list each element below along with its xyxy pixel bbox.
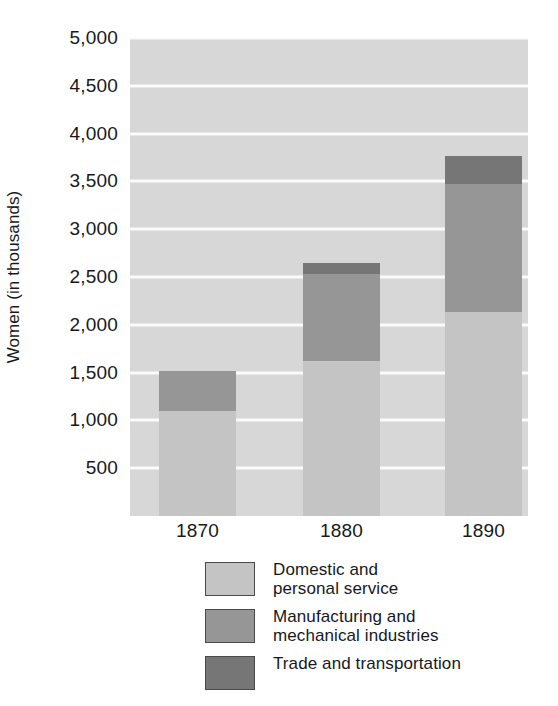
legend-label: Domestic and personal service	[273, 560, 398, 598]
legend-item: Domestic and personal service	[205, 560, 535, 598]
x-tick-label-1890: 1890	[462, 520, 505, 542]
y-tick-label: 5,000	[69, 27, 118, 49]
y-tick-label: 4,000	[69, 123, 118, 145]
y-tick-label: 3,000	[69, 218, 118, 240]
legend-swatch-icon	[205, 609, 255, 643]
chart-figure: Women (in thousands) 5001,0001,5002,0002…	[0, 0, 558, 706]
bar-segment-manufacturing-mechanical-industries-1880	[303, 274, 380, 361]
bar-segment-domestic-personal-service-1890	[445, 312, 522, 516]
legend-item: Trade and transportation	[205, 654, 535, 690]
x-tick-label-1880: 1880	[320, 520, 363, 542]
legend-label: Trade and transportation	[273, 654, 461, 673]
bar-1890	[445, 38, 522, 516]
bar-segment-domestic-personal-service-1880	[303, 361, 380, 516]
y-axis-title: Women (in thousands)	[0, 38, 28, 516]
y-tick-label: 1,000	[69, 409, 118, 431]
bar-1870	[159, 38, 236, 516]
y-tick-label: 1,500	[69, 362, 118, 384]
y-tick-label: 4,500	[69, 75, 118, 97]
y-tick-label: 500	[86, 457, 118, 479]
legend-swatch-icon	[205, 562, 255, 596]
bar-segment-manufacturing-mechanical-industries-1890	[445, 184, 522, 312]
x-axis-tick-labels: 187018801890	[130, 520, 528, 550]
legend-swatch-icon	[205, 656, 255, 690]
legend-label: Manufacturing and mechanical industries	[273, 607, 439, 645]
bar-1880	[303, 38, 380, 516]
y-tick-label: 3,500	[69, 170, 118, 192]
bar-segment-trade-and-transportation-1880	[303, 263, 380, 274]
bar-segment-trade-and-transportation-1890	[445, 156, 522, 185]
y-tick-label: 2,000	[69, 314, 118, 336]
bar-segment-manufacturing-mechanical-industries-1870	[159, 371, 236, 411]
y-axis-tick-labels: 5001,0001,5002,0002,5003,0003,5004,0004,…	[28, 0, 126, 706]
bar-segment-domestic-personal-service-1870	[159, 411, 236, 516]
x-tick-label-1870: 1870	[176, 520, 219, 542]
plot-area	[130, 38, 528, 516]
chart-legend: Domestic and personal serviceManufacturi…	[205, 560, 535, 699]
legend-item: Manufacturing and mechanical industries	[205, 607, 535, 645]
y-axis-title-label: Women (in thousands)	[4, 191, 24, 364]
y-tick-label: 2,500	[69, 266, 118, 288]
